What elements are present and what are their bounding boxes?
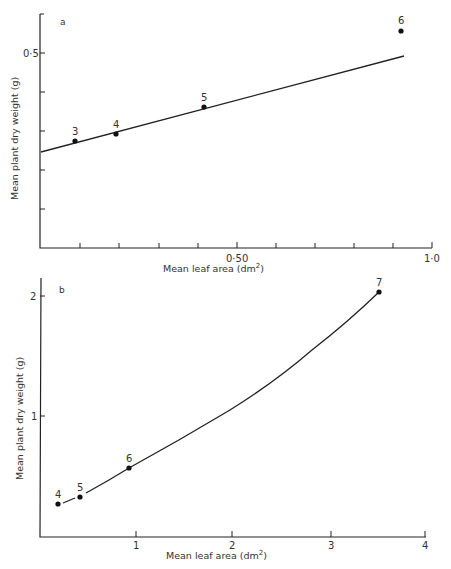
chart-b-x-tick-label: 4 [422,540,428,551]
chart-a-point-label: 6 [398,15,404,26]
chart-a-x-axis-title: Mean leaf area (dm2) [163,262,264,274]
chart-b-y-tick-label: 1 [31,411,37,422]
chart-a-point-label: 5 [201,92,207,103]
chart-a-point-label: 4 [113,119,119,130]
chart-a-y-axis-title: Mean plant dry weight (g) [9,77,20,200]
chart-b-point-7 [376,289,381,294]
chart-b-x-tick-label: 3 [328,540,334,551]
chart-a-point-4 [113,131,118,136]
chart-b-point-label: 6 [126,453,132,464]
chart-b-point-5 [77,494,82,499]
chart-a-y-tick-label: 0·5 [23,48,39,59]
chart-b-point-6 [126,465,131,470]
chart-b-point-label: 4 [55,489,61,500]
figure: 0·5 0·50 1·0 Mean leaf area (dm2) Mean p… [0,0,451,569]
chart-b-fit-curve-seg1 [63,498,75,503]
chart-a-point-3 [72,138,77,143]
chart-a-fit-line [41,56,404,152]
chart-b-y-tick-label: 2 [30,291,36,302]
chart-a-axes [40,14,432,248]
chart-b-panel-letter: b [59,285,65,295]
chart-a-x-tick-label: 1·0 [424,253,440,264]
chart-b-point-label: 5 [77,482,83,493]
chart-b-x-axis-title: Mean leaf area (dm2) [166,549,267,561]
chart-b: 2 1 1 2 3 4 Mean leaf area (dm2) Mean pl… [14,277,428,561]
chart-a-x-ticks [80,242,432,248]
chart-b-x-tick-label: 1 [133,540,139,551]
chart-a-point-5 [201,104,206,109]
chart-a: 0·5 0·50 1·0 Mean leaf area (dm2) Mean p… [9,14,440,274]
chart-b-point-label: 7 [376,277,382,288]
chart-a-y-ticks [40,53,45,209]
chart-b-y-axis-title: Mean plant dry weight (g) [14,357,25,480]
chart-a-panel-letter: a [60,17,66,27]
chart-a-point-label: 3 [72,126,78,137]
chart-b-point-4 [55,501,60,506]
chart-a-point-6 [398,28,403,33]
